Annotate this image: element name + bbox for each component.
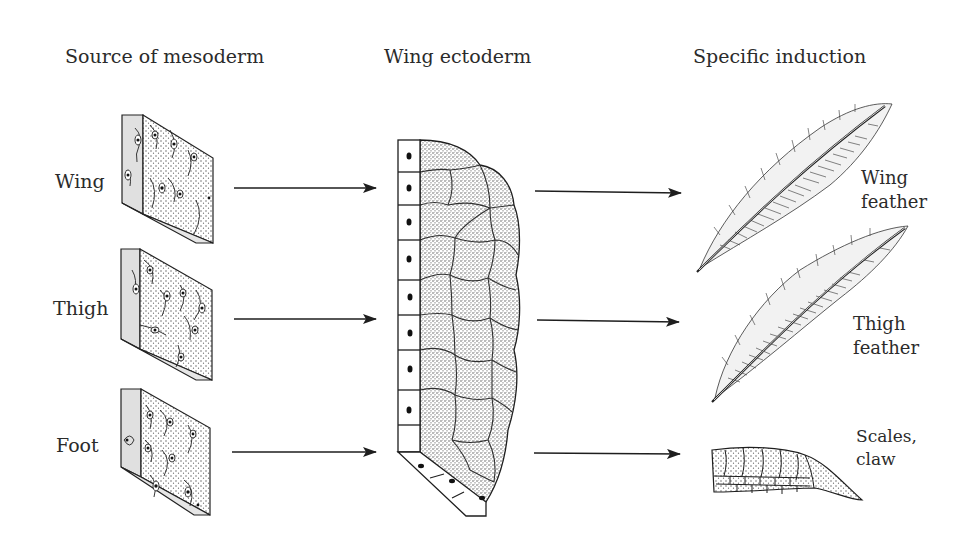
arrow-ectoderm-to-thigh-feather [537,320,679,322]
diagram-canvas [0,0,971,548]
thigh-mesoderm-block [121,249,212,380]
wing-mesoderm-block [122,115,213,243]
foot-mesoderm-block [121,389,210,515]
wing-ectoderm-sheet [398,140,520,516]
arrow-ectoderm-to-wing-feather [535,191,681,193]
thigh-feather-illustration [712,226,908,402]
arrow-ectoderm-to-scales-claw [534,453,680,454]
scales-claw-illustration [712,447,862,500]
